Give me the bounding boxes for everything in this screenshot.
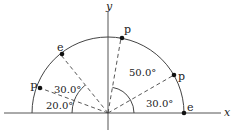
angle-label-left-large: 30.0°: [54, 84, 81, 95]
angle-label-left-small: 20.0°: [46, 100, 73, 111]
angle-arc-30-right: [131, 100, 135, 113]
label-P-left: P: [30, 81, 38, 94]
point-e-right: [182, 111, 187, 116]
x-axis-label: x: [224, 106, 231, 119]
y-axis-label: y: [105, 0, 113, 13]
point-p-30: [172, 73, 177, 78]
label-e-right: e: [187, 101, 194, 114]
point-P-left: [38, 86, 43, 91]
angle-arc-50-right: [113, 87, 131, 100]
angle-label-right-small: 30.0°: [146, 98, 173, 109]
label-p-80: p: [124, 23, 131, 36]
diagram-canvas: x y e p p e P 30.0° 50.0° 20.0° 30.0°: [0, 0, 238, 136]
label-p-30: p: [178, 70, 185, 83]
radius-80deg: [108, 38, 121, 113]
point-p-80: [120, 36, 125, 41]
label-e-left: e: [57, 41, 64, 54]
angle-label-right-large: 50.0°: [129, 67, 156, 78]
